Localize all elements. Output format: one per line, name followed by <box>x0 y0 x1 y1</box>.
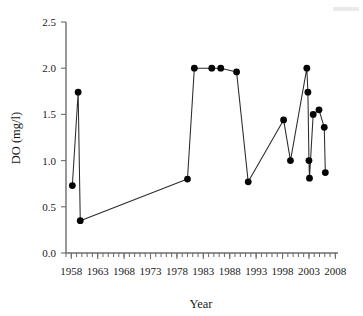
series-line-do <box>72 68 325 220</box>
x-tick-label: 2003 <box>298 265 321 277</box>
x-tick-label: 1983 <box>192 265 215 277</box>
data-point <box>77 217 84 224</box>
y-axis-title: DO (mg/l) <box>9 112 23 164</box>
data-point <box>233 69 240 76</box>
data-point <box>303 65 310 72</box>
data-point <box>306 175 313 182</box>
y-axis-tick-marks <box>61 22 66 253</box>
corner-artifact <box>333 7 359 11</box>
y-axis-tick-labels: 0.00.51.01.52.02.5 <box>42 16 56 259</box>
chart-container: 0.00.51.01.52.02.5 195819631968197319781… <box>0 0 363 316</box>
data-point <box>321 124 328 131</box>
x-tick-label: 1998 <box>272 265 295 277</box>
data-point <box>191 65 198 72</box>
x-axis-tick-marks <box>71 253 335 259</box>
x-tick-label: 1978 <box>166 265 189 277</box>
data-point <box>280 117 287 124</box>
data-point <box>305 89 312 96</box>
plot-axes <box>66 22 338 253</box>
x-axis-title: Year <box>189 297 213 311</box>
y-tick-label: 1.0 <box>42 155 56 167</box>
x-tick-label: 1963 <box>87 265 110 277</box>
x-axis-tick-labels: 1958196319681973197819831988199319982003… <box>60 265 347 277</box>
data-point <box>208 65 215 72</box>
data-point <box>287 157 294 164</box>
x-tick-label: 1973 <box>140 265 163 277</box>
data-point <box>184 176 191 183</box>
x-tick-label: 1968 <box>113 265 136 277</box>
x-tick-label: 1958 <box>60 265 83 277</box>
data-point <box>217 65 224 72</box>
series-markers-do <box>69 65 329 224</box>
dissolved-oxygen-line-chart: 0.00.51.01.52.02.5 195819631968197319781… <box>0 0 363 316</box>
y-tick-label: 2.0 <box>42 62 56 74</box>
data-point <box>245 178 252 185</box>
y-tick-label: 1.5 <box>42 108 56 120</box>
x-tick-label: 1993 <box>245 265 268 277</box>
y-tick-label: 0.0 <box>42 247 56 259</box>
y-tick-label: 0.5 <box>42 201 56 213</box>
data-point <box>75 89 82 96</box>
y-tick-label: 2.5 <box>42 16 56 28</box>
data-point <box>310 111 317 118</box>
data-point <box>306 157 313 164</box>
data-point <box>322 169 329 176</box>
data-point <box>316 106 323 113</box>
data-point <box>69 182 76 189</box>
x-tick-label: 1988 <box>219 265 242 277</box>
x-tick-label: 2008 <box>324 265 347 277</box>
